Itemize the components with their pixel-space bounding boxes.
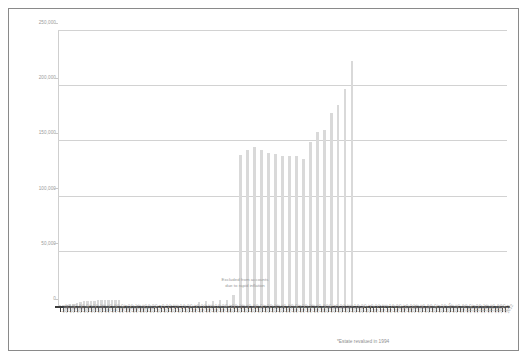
y-axis-tick (54, 23, 58, 24)
chart-frame: 250,000200,000150,000100,00050,0000 1884… (8, 8, 519, 351)
x-axis-labels: 1884188518861887188818891890189118921893… (58, 312, 507, 338)
x-axis-year-label: 2012 (506, 304, 515, 315)
bar (302, 159, 305, 306)
y-axis-tick (54, 243, 58, 244)
y-axis-tick (54, 299, 58, 300)
bar (344, 89, 347, 306)
bar (330, 113, 333, 306)
bar (288, 156, 291, 306)
y-axis-tick (54, 78, 58, 79)
excluded-years-note-line2: due to rapid inflation (202, 283, 288, 289)
bar (309, 142, 312, 306)
bar (323, 130, 326, 306)
plot-area (58, 30, 507, 306)
y-axis-tick (54, 188, 58, 189)
bar (337, 105, 340, 306)
chart-screenshot: 250,000200,000150,000100,00050,0000 1884… (0, 0, 527, 359)
y-axis-labels: 250,000200,000150,000100,00050,0000 (19, 9, 56, 359)
excluded-years-note: Excluded from accounts due to rapid infl… (202, 277, 288, 289)
y-axis-tick (54, 133, 58, 134)
bar-series (58, 30, 507, 306)
bar (351, 61, 354, 306)
revaluation-footnote: *Estate revalued in 1994 (337, 339, 389, 345)
bar (316, 132, 319, 306)
bar (295, 156, 298, 306)
